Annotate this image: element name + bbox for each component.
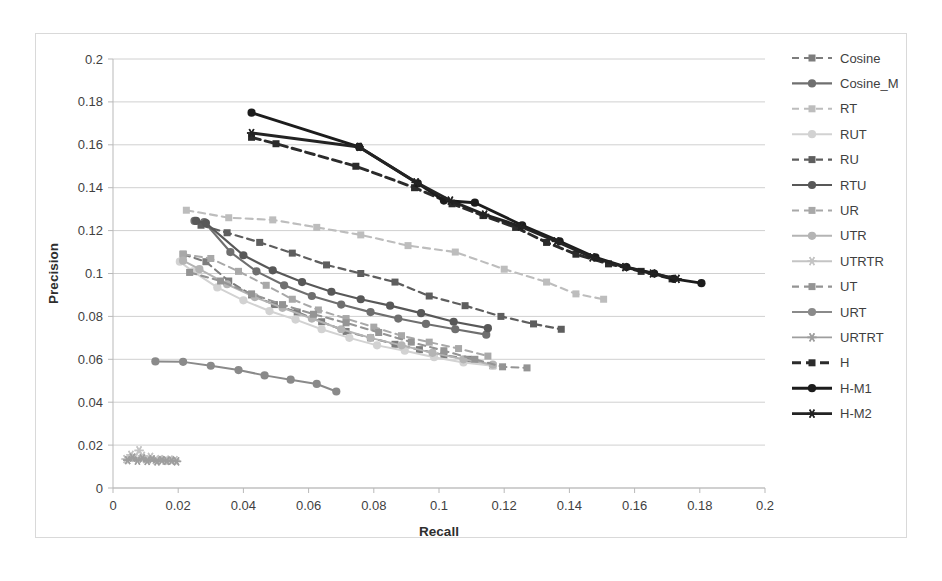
data-point-10-5 <box>287 376 295 384</box>
legend-item-ut[interactable]: UT <box>792 279 857 294</box>
legend-label-5: RTU <box>840 178 866 193</box>
data-point-7-1 <box>195 265 203 273</box>
data-point-10-3 <box>234 366 242 374</box>
data-point-2-10 <box>600 296 607 303</box>
data-point-1-3 <box>252 267 260 275</box>
data-point-1-2 <box>226 248 234 256</box>
data-point-12-2 <box>352 163 359 170</box>
data-point-10-1 <box>179 358 187 366</box>
data-point-7-6 <box>337 325 345 333</box>
data-point-4-5 <box>357 270 364 277</box>
legend-item-urt[interactable]: URT <box>792 305 867 320</box>
data-point-2-2 <box>269 216 276 223</box>
legend-item-ur[interactable]: UR <box>792 203 859 218</box>
legend-item-h-m2[interactable]: H-M2 <box>792 406 872 421</box>
legend-item-h-m1[interactable]: H-M1 <box>792 381 872 396</box>
data-point-4-9 <box>497 313 504 320</box>
legend-item-rtu[interactable]: RTU <box>792 178 866 193</box>
data-point-3-2 <box>213 283 221 291</box>
legend-marker-9 <box>809 283 816 290</box>
data-point-2-4 <box>357 231 364 238</box>
y-tick-label-0: 0 <box>96 481 103 496</box>
data-point-5-8 <box>417 309 425 317</box>
x-tick-label-10: 0.2 <box>756 498 774 513</box>
data-point-9-10 <box>499 363 506 370</box>
legend-item-cosine[interactable]: Cosine <box>792 51 880 66</box>
legend-marker-2 <box>809 105 816 112</box>
data-point-4-2 <box>256 239 263 246</box>
data-point-12-0 <box>248 134 255 141</box>
data-point-6-9 <box>426 339 433 346</box>
x-tick-label-4: 0.08 <box>361 498 386 513</box>
data-point-6-10 <box>455 345 462 352</box>
data-point-4-6 <box>391 279 398 286</box>
data-point-4-10 <box>530 320 537 327</box>
legend-item-cosine-m[interactable]: Cosine_M <box>792 76 899 91</box>
y-tick-label-3: 0.06 <box>78 352 103 367</box>
data-point-2-9 <box>572 290 579 297</box>
data-point-4-4 <box>323 261 330 268</box>
data-point-6-11 <box>484 353 491 360</box>
data-point-10-2 <box>207 362 215 370</box>
legend-label-1: Cosine_M <box>840 76 899 91</box>
x-tick-label-8: 0.16 <box>622 498 647 513</box>
legend-label-9: UT <box>840 279 857 294</box>
legend-item-h[interactable]: H <box>792 355 849 370</box>
data-point-12-1 <box>273 140 280 147</box>
legend-label-0: Cosine <box>840 51 880 66</box>
data-point-9-4 <box>310 311 317 318</box>
data-point-5-0 <box>192 217 200 225</box>
data-point-9-8 <box>440 347 447 354</box>
data-point-9-1 <box>217 278 224 285</box>
data-point-3-3 <box>239 296 247 304</box>
legend-item-rt[interactable]: RT <box>792 101 857 116</box>
data-point-12-7 <box>543 239 550 246</box>
y-tick-label-9: 0.18 <box>78 94 103 109</box>
legend-marker-6 <box>809 207 816 214</box>
data-point-9-9 <box>471 356 478 363</box>
data-point-9-2 <box>248 290 255 297</box>
data-point-4-1 <box>224 229 231 236</box>
data-point-5-5 <box>327 288 335 296</box>
data-point-7-9 <box>428 349 436 357</box>
data-point-9-3 <box>279 301 286 308</box>
legend-label-7: UTR <box>840 228 867 243</box>
legend-marker-0 <box>809 55 816 62</box>
legend: CosineCosine_MRTRUTRURTUURUTRUTRTRUTURTU… <box>792 51 899 422</box>
legend-label-12: H <box>840 355 849 370</box>
legend-label-4: RU <box>840 152 859 167</box>
data-point-13-11 <box>697 279 705 287</box>
data-point-5-1 <box>202 219 210 227</box>
legend-item-utr[interactable]: UTR <box>792 228 867 243</box>
y-tick-label-6: 0.12 <box>78 223 103 238</box>
data-point-3-6 <box>318 325 326 333</box>
data-point-1-4 <box>280 281 288 289</box>
data-point-5-6 <box>357 295 365 303</box>
legend-item-utrtr[interactable]: UTRTR <box>792 254 884 269</box>
y-tick-label-2: 0.04 <box>78 395 103 410</box>
y-tick-label-4: 0.08 <box>78 309 103 324</box>
x-tick-label-6: 0.12 <box>492 498 517 513</box>
legend-item-urtrt[interactable]: URTRT <box>792 330 884 345</box>
legend-label-13: H-M1 <box>840 381 872 396</box>
precision-recall-plot: 00.020.040.060.080.10.120.140.160.180.20… <box>36 34 906 537</box>
data-point-1-7 <box>366 308 374 316</box>
data-point-10-7 <box>332 387 340 395</box>
x-tick-label-1: 0.02 <box>166 498 191 513</box>
x-axis-title: Recall <box>419 524 459 537</box>
data-point-2-7 <box>501 266 508 273</box>
data-point-2-8 <box>543 279 550 286</box>
data-point-9-6 <box>375 329 382 336</box>
data-point-4-11 <box>558 326 565 333</box>
x-tick-label-0: 0 <box>109 498 116 513</box>
legend-item-rut[interactable]: RUT <box>792 127 867 142</box>
data-point-5-2 <box>239 251 247 259</box>
data-point-1-8 <box>394 314 402 322</box>
data-point-3-7 <box>345 334 353 342</box>
legend-label-14: H-M2 <box>840 406 872 421</box>
data-point-4-8 <box>462 302 469 309</box>
data-point-10-0 <box>151 357 159 365</box>
legend-item-ru[interactable]: RU <box>792 152 859 167</box>
data-point-1-10 <box>451 325 459 333</box>
data-point-3-8 <box>373 341 381 349</box>
